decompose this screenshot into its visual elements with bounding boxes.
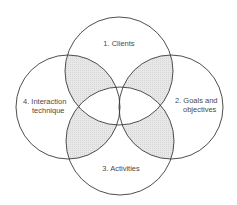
label-interaction-line2: technique: [32, 106, 65, 115]
venn-diagram: 1. Clients 2. Goals and objectives 3. Ac…: [0, 0, 237, 205]
label-activities: 3. Activities: [102, 164, 140, 173]
label-interaction-line1: 4. Interaction: [23, 97, 66, 106]
label-clients: 1. Clients: [103, 39, 135, 48]
label-goals-line2: objectives: [183, 105, 217, 114]
label-goals-line1: 2. Goals and: [175, 96, 218, 105]
